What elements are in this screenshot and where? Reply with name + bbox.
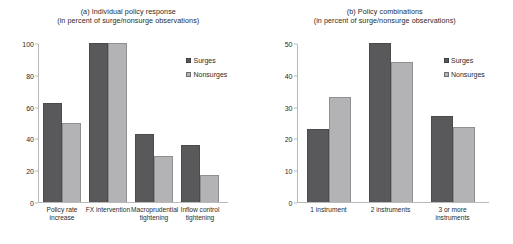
- panel-b: (b) Policy combinations (in percent of s…: [257, 0, 513, 244]
- panel-b-title: (b) Policy combinations (in percent of s…: [257, 7, 513, 25]
- panel-b-title-line1: (b) Policy combinations: [257, 7, 513, 16]
- figure: (a) Individual policy response (in perce…: [0, 0, 513, 244]
- y-tick-label: 100: [7, 41, 34, 48]
- legend-label-nonsurges: Nonsurges: [451, 71, 485, 78]
- bar-nonsurges: [154, 156, 173, 202]
- y-tick-label: 80: [7, 72, 34, 79]
- x-tick-label-line: 1 instrument: [298, 206, 360, 214]
- y-tick-mark: [35, 139, 38, 140]
- x-tick-label: 1 instrument: [298, 206, 360, 214]
- y-tick-mark: [294, 203, 297, 204]
- y-tick-mark: [294, 139, 297, 140]
- legend-swatch-surges-icon: [186, 58, 191, 63]
- legend-label-nonsurges: Nonsurges: [194, 71, 228, 78]
- bar-group: 2 instruments: [360, 44, 422, 202]
- x-tick-label: 3 or more instruments: [422, 206, 484, 222]
- panel-a: (a) Individual policy response (in perce…: [0, 0, 257, 244]
- y-tick-mark: [294, 171, 297, 172]
- x-tick-label-line: tightening: [177, 214, 223, 222]
- legend-item-nonsurges: Nonsurges: [444, 71, 485, 78]
- panel-b-legend: Surges Nonsurges: [444, 57, 485, 84]
- x-tick-label: Policy rateincrease: [39, 206, 85, 222]
- y-tick-label: 0: [7, 200, 34, 207]
- x-tick-label: FX intervention: [85, 206, 131, 214]
- y-tick-mark: [294, 107, 297, 108]
- y-tick-label: 20: [266, 136, 293, 143]
- bar-group: Policy rateincrease: [39, 44, 85, 202]
- x-tick-label-line: increase: [39, 214, 85, 222]
- x-tick-label: Inflow controltightening: [177, 206, 223, 222]
- bar-nonsurges: [453, 127, 475, 202]
- bar-nonsurges: [108, 43, 127, 202]
- x-tick-label-line: tightening: [131, 214, 177, 222]
- x-tick-label-line: 3 or more instruments: [422, 206, 484, 222]
- bar-nonsurges: [62, 123, 81, 202]
- y-tick-mark: [35, 107, 38, 108]
- panel-b-title-line2: (in percent of surge/nonsurge observatio…: [257, 16, 513, 25]
- x-tick-label: 2 instruments: [360, 206, 422, 214]
- y-tick-mark: [294, 75, 297, 76]
- legend-swatch-nonsurges-icon: [444, 72, 449, 77]
- y-tick-label: 60: [7, 104, 34, 111]
- panel-a-title-line2: (in percent of surge/nonsurge observatio…: [0, 16, 257, 25]
- bar-surges: [369, 43, 391, 202]
- y-tick-mark: [35, 44, 38, 45]
- y-tick-label: 40: [7, 136, 34, 143]
- panel-a-title-line1: (a) Individual policy response: [0, 7, 257, 16]
- y-tick-label: 0: [266, 200, 293, 207]
- bar-group: Macroprudentialtightening: [131, 44, 177, 202]
- bar-nonsurges: [200, 175, 219, 202]
- y-tick-label: 40: [266, 72, 293, 79]
- x-tick-label-line: FX intervention: [85, 206, 131, 214]
- legend-item-surges: Surges: [186, 57, 227, 64]
- bar-surges: [431, 116, 453, 202]
- bar-surges: [135, 134, 154, 202]
- y-tick-label: 10: [266, 168, 293, 175]
- bar-nonsurges: [391, 62, 413, 202]
- legend-swatch-nonsurges-icon: [186, 72, 191, 77]
- legend-item-nonsurges: Nonsurges: [186, 71, 227, 78]
- legend-item-surges: Surges: [444, 57, 485, 64]
- bar-group: 1 instrument: [298, 44, 360, 202]
- y-tick-mark: [35, 75, 38, 76]
- legend-swatch-surges-icon: [444, 58, 449, 63]
- panel-a-title: (a) Individual policy response (in perce…: [0, 7, 257, 25]
- panel-a-x-axis: [38, 202, 228, 203]
- bar-surges: [307, 129, 329, 202]
- bar-surges: [89, 43, 108, 202]
- panel-a-legend: Surges Nonsurges: [186, 57, 227, 84]
- y-tick-mark: [35, 171, 38, 172]
- bar-group: FX intervention: [85, 44, 131, 202]
- legend-label-surges: Surges: [194, 57, 216, 64]
- x-tick-label-line: 2 instruments: [360, 206, 422, 214]
- x-tick-label-line: Inflow control: [177, 206, 223, 214]
- legend-label-surges: Surges: [451, 57, 473, 64]
- x-tick-label-line: Policy rate: [39, 206, 85, 214]
- y-tick-label: 50: [266, 41, 293, 48]
- x-tick-label: Macroprudentialtightening: [131, 206, 177, 222]
- bar-nonsurges: [329, 97, 351, 202]
- y-tick-mark: [35, 203, 38, 204]
- bar-surges: [181, 145, 200, 202]
- bar-surges: [43, 103, 62, 202]
- y-tick-mark: [294, 44, 297, 45]
- panel-b-x-axis: [297, 202, 489, 203]
- y-tick-label: 30: [266, 104, 293, 111]
- y-tick-label: 20: [7, 168, 34, 175]
- x-tick-label-line: Macroprudential: [131, 206, 177, 214]
